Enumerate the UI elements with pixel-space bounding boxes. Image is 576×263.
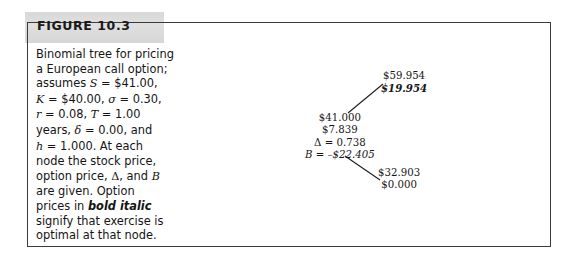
caption-value-S: $41.00 [114, 76, 154, 90]
caption-line-13: optimal at that node. [36, 228, 157, 242]
caption-line-9: option price, Δ, and B [36, 169, 160, 183]
caption-line-2: a European call option; [36, 62, 168, 76]
caption-line-11: prices in bold italic [36, 199, 152, 213]
caption-value-K: $40.00 [61, 92, 101, 106]
node-down-option-price: $0.000 [378, 179, 420, 191]
binomial-tree: $59.954 $19.954 $41.000 $7.839 Δ = 0.738… [288, 0, 576, 263]
node-root-option-price: $7.839 [305, 124, 375, 136]
tree-node-down: $32.903 $0.000 [378, 167, 420, 192]
node-down-stock-price: $32.903 [378, 167, 420, 179]
caption-value-h: 1.000 [60, 139, 93, 153]
caption-line-12: signify that exercise is [36, 214, 163, 228]
caption-line-6: years, δ = 0.00, and [36, 123, 152, 137]
caption-value-delta: 0.00 [98, 123, 123, 137]
node-up-stock-price: $59.954 [381, 70, 427, 82]
caption-line-7: h = 1.000. At each [36, 139, 143, 153]
caption-line-8: node the stock price, [36, 154, 156, 168]
caption-value-T: 1.00 [115, 107, 140, 121]
node-root-stock-price: $41.000 [305, 112, 375, 124]
caption-line-4: K = $40.00, σ = 0.30, [36, 92, 162, 106]
figure-container: FIGURE 10.3 Binomial tree for pricing a … [0, 0, 576, 263]
caption-line-1: Binomial tree for pricing [36, 47, 174, 61]
caption-line-5: r = 0.08, T = 1.00 [36, 107, 140, 121]
edge-root-to-up [348, 84, 383, 113]
node-up-option-price: $19.954 [381, 82, 427, 94]
node-root-delta: Δ = 0.738 [305, 137, 375, 149]
caption-emphasis: bold italic [88, 199, 152, 213]
caption-value-r: 0.08 [58, 107, 83, 121]
caption-line-10: are given. Option [36, 184, 135, 198]
tree-node-root: $41.000 $7.839 Δ = 0.738 B = –$22.405 [305, 112, 375, 162]
node-root-b-value: B = –$22.405 [305, 149, 375, 161]
figure-caption: Binomial tree for pricing a European cal… [36, 47, 164, 243]
caption-value-sigma: 0.30 [133, 92, 158, 106]
caption-line-3: assumes S = $41.00, [36, 76, 158, 90]
tree-node-up: $59.954 $19.954 [381, 70, 427, 95]
figure-label: FIGURE 10.3 [37, 18, 131, 33]
